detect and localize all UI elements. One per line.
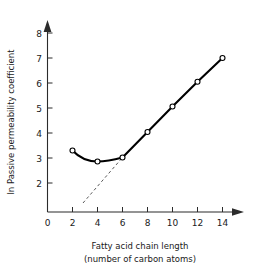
data-series-line — [73, 58, 223, 162]
y-axis-arrowhead — [44, 20, 52, 32]
data-point-markers — [70, 56, 225, 165]
y-axis-ticks — [48, 33, 53, 183]
x-axis-title-subline: (number of carbon atoms) — [84, 254, 196, 264]
x-axis-title: Fatty acid chain length — [92, 241, 189, 251]
y-tick-label-4: 4 — [36, 129, 42, 139]
x-axis-tick-labels: 0 2 4 6 8 10 12 14 — [45, 218, 229, 228]
x-tick-label-4: 4 — [95, 218, 101, 228]
x-tick-label-14: 14 — [217, 218, 229, 228]
data-point-marker — [170, 104, 175, 109]
y-tick-label-7: 7 — [36, 54, 42, 64]
x-tick-label-0: 0 — [45, 218, 51, 228]
y-tick-label-6: 6 — [36, 79, 42, 89]
chart-plot-area: 2 3 4 5 6 7 8 0 2 4 6 8 10 12 — [0, 0, 262, 276]
data-point-marker — [70, 148, 75, 153]
data-point-marker — [120, 155, 125, 160]
chart-figure: 2 3 4 5 6 7 8 0 2 4 6 8 10 12 — [0, 0, 262, 276]
y-axis-title: ln Passive permeability coefficient — [6, 49, 16, 195]
data-point-marker — [95, 159, 100, 164]
x-axis-arrowhead — [232, 208, 244, 216]
x-tick-label-10: 10 — [167, 218, 179, 228]
y-tick-label-3: 3 — [36, 154, 42, 164]
data-point-marker — [195, 79, 200, 84]
y-tick-label-2: 2 — [36, 179, 42, 189]
y-tick-label-8: 8 — [36, 29, 42, 39]
x-tick-label-2: 2 — [70, 218, 76, 228]
x-tick-label-6: 6 — [120, 218, 126, 228]
x-tick-label-8: 8 — [145, 218, 151, 228]
extrapolation-dashed-line — [83, 158, 123, 204]
data-point-marker — [145, 130, 150, 135]
y-axis-tick-labels: 2 3 4 5 6 7 8 — [36, 29, 42, 189]
x-tick-label-12: 12 — [192, 218, 203, 228]
y-tick-label-5: 5 — [36, 104, 42, 114]
data-point-marker — [220, 56, 225, 61]
x-axis-ticks — [48, 207, 223, 212]
